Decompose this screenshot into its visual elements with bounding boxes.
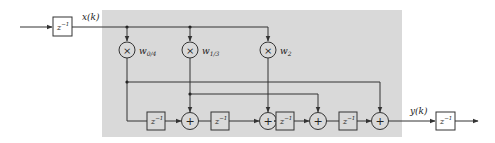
chain-delay-2: z−1	[211, 112, 229, 130]
svg-text:+: +	[264, 115, 273, 128]
input-signal-label: x(k)	[82, 12, 100, 22]
output-delay-block: z−1	[436, 112, 455, 130]
svg-text:×: ×	[264, 45, 272, 56]
diagram-svg: z−1 x(k) × w0/4 × w1/3 × w2 z−1	[0, 0, 495, 143]
chain-delay-4: z−1	[339, 112, 357, 130]
fir-filter-diagram: z−1 x(k) × w0/4 × w1/3 × w2 z−1	[0, 0, 495, 143]
svg-text:+: +	[186, 115, 195, 128]
svg-text:×: ×	[186, 45, 194, 56]
svg-text:×: ×	[123, 45, 131, 56]
svg-text:+: +	[376, 115, 385, 128]
output-signal-label: y(k)	[409, 106, 428, 116]
svg-text:+: +	[314, 115, 323, 128]
chain-delay-1: z−1	[147, 112, 165, 130]
chain-delay-3: z−1	[276, 112, 294, 130]
input-delay-block: z−1	[53, 17, 72, 36]
